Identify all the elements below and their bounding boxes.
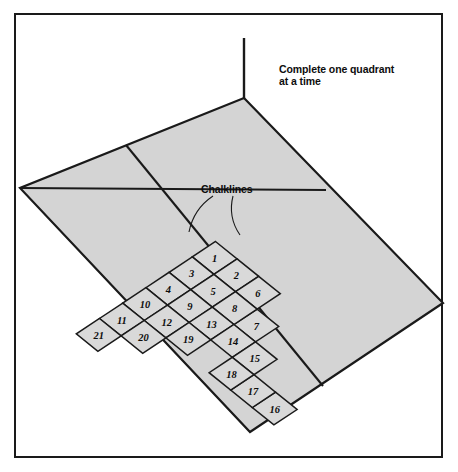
tile-number: 7 [254,320,259,331]
tile-number: 9 [187,301,192,312]
tile-number: 13 [206,318,217,329]
tile-number: 15 [249,353,260,364]
tile-number: 4 [166,283,171,294]
tile-number: 6 [255,287,260,298]
chalklines-label: Chalklines [201,183,253,195]
quadrant-instruction-note: Complete one quadrant at a time [279,63,394,88]
tile-number: 3 [189,268,194,279]
tile-number: 2 [234,270,239,281]
tile-number: 1 [212,252,217,263]
tile-number: 5 [210,285,215,296]
diagram-root: Complete one quadrant at a time Chalklin… [0,0,458,472]
tile-number: 20 [138,331,149,342]
tile-number: 14 [228,335,239,346]
tile-number: 16 [269,403,280,414]
tile-number: 17 [248,386,259,397]
tile-number: 21 [93,329,104,340]
tile-number: 11 [117,314,127,325]
tile-number: 10 [140,299,151,310]
tile-number: 18 [226,368,237,379]
tile-number: 12 [161,316,172,327]
tile-number: 19 [183,333,194,344]
tile-number: 8 [232,303,237,314]
